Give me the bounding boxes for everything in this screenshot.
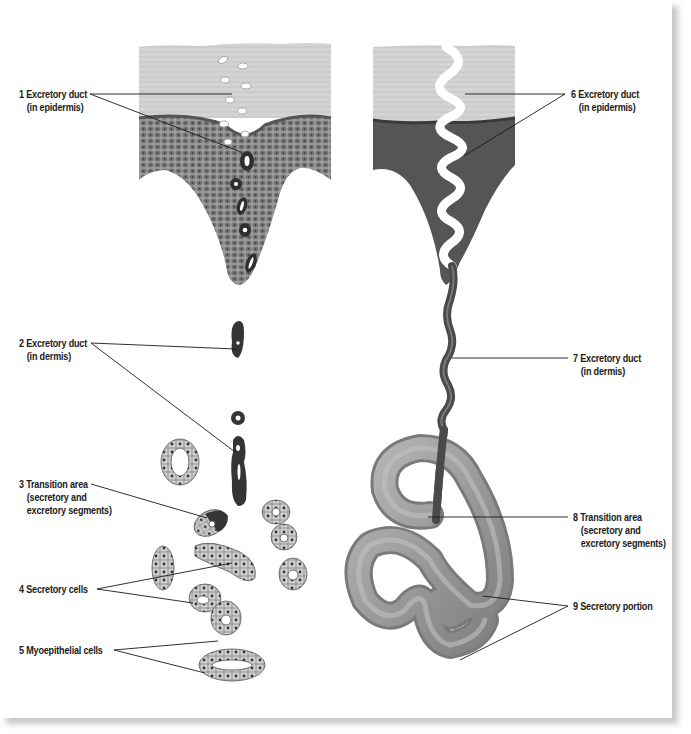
label-8-line2: (secretory and (573, 524, 666, 537)
label-7-line2: (in dermis) (573, 365, 641, 378)
label-6-line2: (in epidermis) (571, 101, 639, 114)
label-2-line2: (in dermis) (19, 350, 87, 363)
label-1-line1: 1 Excretory duct (19, 88, 87, 100)
label-4-secretory-cells: 4 Secretory cells (19, 583, 88, 596)
label-8-line1: 8 Transition area (573, 511, 642, 523)
label-8-line3: excretory segments) (573, 537, 666, 550)
label-7-excretory-duct-dermis: 7 Excretory duct (in dermis) (573, 352, 641, 378)
label-3-line2: (secretory and (19, 491, 112, 504)
label-9-line1: 9 Secretory portion (573, 600, 653, 612)
label-5-line1: 5 Myoepithelial cells (19, 644, 103, 656)
label-3-line1: 3 Transition area (19, 478, 88, 490)
label-1-excretory-duct-epidermis: 1 Excretory duct (in epidermis) (19, 88, 87, 114)
left-epidermis-section (139, 43, 331, 285)
label-7-line1: 7 Excretory duct (573, 352, 641, 364)
label-1-line2: (in epidermis) (19, 101, 87, 114)
label-3-line3: excretory segments) (19, 504, 112, 517)
right-secretory-coil (359, 430, 500, 645)
label-6-excretory-duct-epidermis: 6 Excretory duct (in epidermis) (571, 88, 639, 114)
label-2-line1: 2 Excretory duct (19, 337, 87, 349)
right-epidermis-section (373, 45, 515, 285)
label-6-line1: 6 Excretory duct (571, 88, 639, 100)
label-5-myoepithelial-cells: 5 Myoepithelial cells (19, 644, 103, 657)
label-9-secretory-portion: 9 Secretory portion (573, 600, 653, 613)
label-4-line1: 4 Secretory cells (19, 583, 88, 595)
label-3-transition-area: 3 Transition area (secretory and excreto… (19, 478, 112, 517)
label-2-excretory-duct-dermis: 2 Excretory duct (in dermis) (19, 337, 87, 363)
label-8-transition-area: 8 Transition area (secretory and excreto… (573, 511, 666, 550)
